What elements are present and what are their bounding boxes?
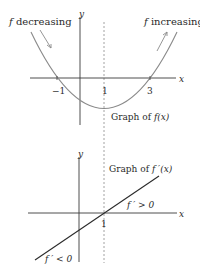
derivative-line: [35, 176, 159, 260]
diagram-canvas: f decreasing f increasing y x −1 1 3 Gra…: [0, 0, 200, 276]
f-decreasing-label: f decreasing: [8, 16, 72, 27]
tick-label-1: 1: [102, 86, 108, 96]
tick-label-neg1: −1: [52, 86, 65, 96]
top-y-axis-label: y: [78, 9, 85, 19]
bottom-x-axis-label: x: [179, 209, 184, 219]
bottom-y-axis-label: y: [77, 149, 84, 159]
graph-of-fprime-caption: Graph of f ′(x): [109, 164, 173, 174]
graph-of-f-caption: Graph of f(x): [111, 112, 170, 122]
bottom-graph: y x 1 Graph of f ′(x) f ′ > 0 f ′ < 0: [28, 149, 184, 264]
decreasing-arrow-line: [40, 30, 51, 48]
fprime-positive-label: f ′ > 0: [126, 200, 154, 210]
f-increasing-label: f increasing: [143, 16, 200, 27]
tick-label-3: 3: [147, 86, 153, 96]
top-x-axis-label: x: [179, 74, 184, 84]
increasing-arrow-line: [157, 32, 167, 51]
fprime-negative-label: f ′ < 0: [44, 254, 72, 264]
tick-label-1-bottom: 1: [101, 219, 107, 229]
